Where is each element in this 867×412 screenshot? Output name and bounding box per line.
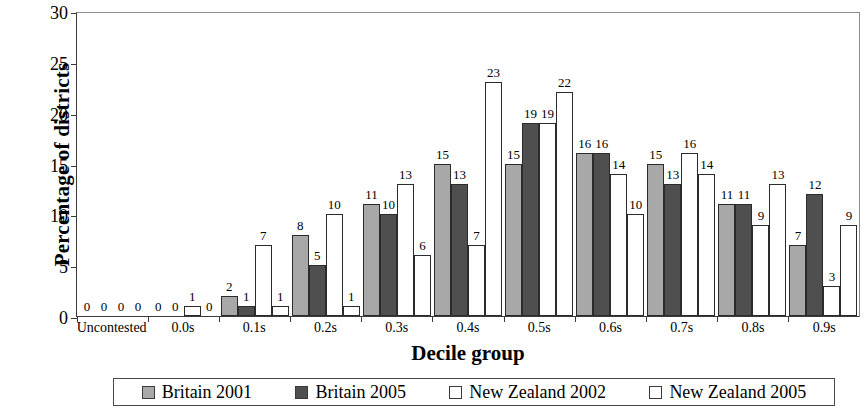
bar-group-bars: 85101 [292, 13, 360, 316]
bar-value-label: 2 [226, 280, 233, 293]
bar[interactable] [522, 123, 539, 316]
bar-value-label: 7 [260, 229, 267, 242]
bar[interactable] [664, 184, 681, 316]
bar[interactable] [434, 164, 451, 317]
bar-value-label: 15 [436, 148, 449, 161]
bar[interactable] [485, 82, 502, 316]
bar[interactable] [576, 153, 593, 316]
bar[interactable] [806, 194, 823, 316]
bar[interactable] [593, 153, 610, 316]
bar-group-bars: 0010 [150, 13, 218, 316]
bar-slot: 0 [79, 13, 96, 316]
bar-groups: 0000001021718510111101361513723151919221… [77, 13, 859, 316]
bar[interactable] [823, 286, 840, 317]
bar-value-label: 0 [155, 300, 162, 313]
bar-value-label: 0 [172, 300, 179, 313]
bar-value-label: 0 [84, 300, 91, 313]
bar[interactable] [698, 174, 715, 316]
bar-value-label: 1 [277, 290, 284, 303]
x-axis-tick-label: 0.4s [432, 320, 503, 336]
bar-slot: 6 [414, 13, 431, 316]
bar-value-label: 12 [808, 178, 821, 191]
bar-slot: 14 [610, 13, 627, 316]
bar[interactable] [397, 184, 414, 316]
legend-item[interactable]: New Zealand 2005 [649, 382, 806, 403]
bar-slot: 8 [292, 13, 309, 316]
bar-value-label: 13 [453, 168, 466, 181]
bar-slot: 10 [380, 13, 397, 316]
bar[interactable] [309, 265, 326, 316]
bar-value-label: 1 [189, 290, 196, 303]
bar[interactable] [840, 225, 857, 317]
x-axis-tick-label: 0.2s [290, 320, 361, 336]
bar[interactable] [221, 296, 238, 316]
bar-group-bars: 71239 [789, 13, 857, 316]
bar[interactable] [343, 306, 360, 316]
bar-slot: 16 [576, 13, 593, 316]
bar[interactable] [647, 164, 664, 317]
chart-legend: Britain 2001Britain 2005New Zealand 2002… [113, 378, 835, 406]
bar-value-label: 14 [700, 158, 713, 171]
legend-swatch-icon [649, 386, 662, 399]
bar-slot: 12 [806, 13, 823, 316]
legend-item[interactable]: New Zealand 2002 [449, 382, 606, 403]
bar[interactable] [326, 214, 343, 316]
bar-slot: 0 [96, 13, 113, 316]
bar-slot: 3 [823, 13, 840, 316]
bar-value-label: 11 [738, 188, 751, 201]
bar[interactable] [789, 245, 806, 316]
bar[interactable] [735, 204, 752, 316]
bar[interactable] [769, 184, 786, 316]
x-axis-title: Decile group [76, 341, 860, 366]
legend-item[interactable]: Britain 2001 [142, 382, 253, 403]
bar[interactable] [539, 123, 556, 316]
bar[interactable] [380, 214, 397, 316]
bar[interactable] [752, 225, 769, 317]
bar-value-label: 19 [541, 107, 554, 120]
bar-value-label: 5 [314, 249, 321, 262]
bar-value-label: 19 [524, 107, 537, 120]
bar-slot: 1 [238, 13, 255, 316]
bar-group-bars: 16161410 [576, 13, 644, 316]
x-axis-tick-label: 0.9s [789, 320, 860, 336]
bar-slot: 9 [752, 13, 769, 316]
legend-swatch-icon [142, 386, 155, 399]
bar[interactable] [363, 204, 380, 316]
bar-value-label: 0 [135, 300, 142, 313]
bar[interactable] [681, 153, 698, 316]
bar[interactable] [627, 214, 644, 316]
bar-value-label: 7 [473, 229, 480, 242]
bar[interactable] [255, 245, 272, 316]
bar-group-bars: 0000 [79, 13, 147, 316]
bar-slot: 0 [167, 13, 184, 316]
bar[interactable] [451, 184, 468, 316]
bar[interactable] [238, 306, 255, 316]
bar-value-label: 16 [683, 137, 696, 150]
legend-item[interactable]: Britain 2005 [295, 382, 406, 403]
bar[interactable] [414, 255, 431, 316]
bar-slot: 1 [184, 13, 201, 316]
bar[interactable] [718, 204, 735, 316]
bar-value-label: 0 [206, 300, 213, 313]
bar-value-label: 9 [846, 209, 853, 222]
bar[interactable] [184, 306, 201, 316]
bar[interactable] [292, 235, 309, 316]
bar-slot: 0 [113, 13, 130, 316]
bar[interactable] [610, 174, 627, 316]
x-axis-tick-label: 0.6s [575, 320, 646, 336]
bar[interactable] [505, 164, 522, 317]
x-axis-tick-labels: Uncontested0.0s0.1s0.2s0.3s0.4s0.5s0.6s0… [76, 320, 860, 336]
bar-slot: 11 [363, 13, 380, 316]
bar-group-bars: 1513723 [434, 13, 502, 316]
bar-value-label: 13 [771, 168, 784, 181]
bar-group: 1111913 [717, 13, 788, 316]
bar-value-label: 11 [721, 188, 734, 201]
x-axis-tick-label: 0.1s [219, 320, 290, 336]
bar[interactable] [468, 245, 485, 316]
bar-value-label: 16 [578, 137, 591, 150]
bar-slot: 7 [789, 13, 806, 316]
bar[interactable] [272, 306, 289, 316]
bar[interactable] [556, 92, 573, 316]
bar-slot: 11 [735, 13, 752, 316]
legend-label: New Zealand 2005 [669, 382, 806, 403]
